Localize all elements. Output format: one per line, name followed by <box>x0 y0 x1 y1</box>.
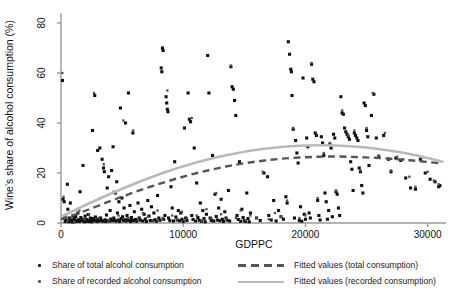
scatter-point <box>176 218 178 220</box>
scatter-point <box>266 175 269 178</box>
legend-label-total-points: Share of total alcohol consumption <box>52 258 184 273</box>
scatter-point <box>312 80 315 83</box>
scatter-point <box>215 215 218 218</box>
scatter-point <box>191 117 193 119</box>
scatter-point <box>327 209 330 212</box>
scatter-point <box>356 139 359 142</box>
scatter-point <box>409 186 412 189</box>
scatter-point <box>137 218 139 220</box>
scatter-point <box>349 160 352 163</box>
scatter-point <box>408 176 410 178</box>
scatter-point <box>91 129 94 132</box>
scatter-point <box>93 92 95 94</box>
scatter-point <box>136 201 139 204</box>
scatter-point <box>326 218 329 221</box>
scatter-point <box>246 217 249 220</box>
scatter-point <box>255 217 257 219</box>
scatter-point <box>337 206 340 209</box>
scatter-point <box>173 160 176 163</box>
x-axis-tick-label: 0 <box>31 229 91 240</box>
scatter-point <box>359 169 361 171</box>
scatter-chart: Wine's share of alcohol consumption (%) … <box>0 0 457 297</box>
scatter-point <box>155 220 158 223</box>
scatter-point <box>220 198 223 201</box>
scatter-point <box>163 214 166 217</box>
scatter-point <box>193 146 196 149</box>
scatter-point <box>404 176 407 179</box>
scatter-point <box>106 186 109 189</box>
scatter-point <box>168 219 171 222</box>
scatter-point <box>61 72 63 74</box>
scatter-point <box>125 214 128 217</box>
scatter-point <box>110 169 113 172</box>
scatter-point <box>156 209 158 211</box>
scatter-point <box>339 95 342 98</box>
scatter-point <box>298 217 300 219</box>
scatter-point <box>115 180 118 183</box>
scatter-point <box>204 220 207 223</box>
scatter-point <box>181 211 183 213</box>
x-axis-tick-label: 10000 <box>153 229 213 240</box>
scatter-point <box>353 129 355 131</box>
scatter-point <box>288 53 291 56</box>
scatter-point <box>145 220 148 223</box>
scatter-point <box>292 127 294 129</box>
scatter-point <box>73 221 75 223</box>
scatter-point <box>62 196 64 198</box>
scatter-point <box>290 94 293 97</box>
scatter-point <box>109 209 112 212</box>
scatter-point <box>121 215 124 218</box>
scatter-point <box>396 156 398 158</box>
scatter-point <box>165 101 168 104</box>
scatter-point <box>172 219 175 222</box>
scatter-point <box>127 91 130 94</box>
scatter-point <box>84 214 87 217</box>
scatter-point <box>140 208 143 211</box>
scatter-point <box>66 183 69 186</box>
scatter-point <box>215 192 217 194</box>
scatter-point <box>294 139 297 142</box>
scatter-point <box>290 70 293 73</box>
scatter-point <box>427 171 429 173</box>
scatter-point <box>286 201 289 204</box>
scatter-point <box>202 217 205 220</box>
scatter-point <box>361 191 364 194</box>
scatter-point <box>152 219 154 221</box>
scatter-point <box>116 211 119 214</box>
scatter-point <box>205 208 207 210</box>
scatter-point <box>190 214 193 217</box>
scatter-point <box>360 184 363 187</box>
scatter-point <box>118 220 121 223</box>
legend-marker-dashed-line <box>238 264 284 267</box>
scatter-point <box>299 205 302 208</box>
scatter-point <box>117 200 120 203</box>
scatter-point <box>194 219 197 222</box>
scatter-point <box>133 210 136 213</box>
scatter-point <box>232 88 235 91</box>
scatter-point <box>222 220 225 223</box>
scatter-point <box>329 142 331 144</box>
scatter-point <box>424 171 427 174</box>
scatter-point <box>119 106 122 109</box>
scatter-point <box>131 131 134 134</box>
scatter-point <box>227 189 230 192</box>
scatter-point <box>160 70 163 73</box>
scatter-point <box>248 220 251 223</box>
scatter-point <box>287 40 290 43</box>
scatter-point <box>171 206 174 209</box>
scatter-point <box>160 66 163 69</box>
scatter-point <box>277 209 280 212</box>
scatter-point <box>316 199 319 202</box>
scatter-point <box>358 166 361 169</box>
y-axis-tick-label: 20 <box>35 162 49 184</box>
scatter-point <box>330 146 333 149</box>
scatter-point <box>347 134 349 136</box>
scatter-point <box>200 219 202 221</box>
scatter-point <box>220 213 222 215</box>
scatter-point <box>315 134 318 137</box>
scatter-point <box>98 217 100 219</box>
scatter-point <box>61 79 64 82</box>
scatter-point <box>88 213 90 215</box>
scatter-point <box>156 194 159 197</box>
scatter-point <box>211 154 214 157</box>
